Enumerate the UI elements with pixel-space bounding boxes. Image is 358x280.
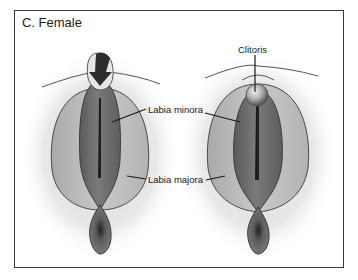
label-clitoris: Clitoris [238,44,267,55]
right-clitoris [246,84,268,106]
anatomy-illustration [0,0,358,280]
right-figure [178,50,338,260]
left-figure [20,50,180,260]
label-labia-majora: Labia majora [148,174,203,185]
label-labia-minora: Labia minora [148,104,203,115]
